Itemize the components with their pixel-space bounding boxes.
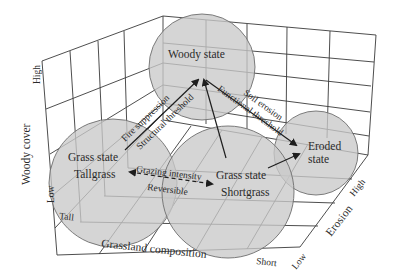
grass-short-state-label: Grass state bbox=[216, 169, 266, 181]
state-transition-diagram: Fire suppression Structural threshold So… bbox=[0, 0, 394, 278]
axis-tick-woody-low: Low bbox=[46, 185, 56, 203]
grass-tall-state-label: Grass state bbox=[68, 151, 118, 163]
axis-label-erosion: Erosion bbox=[323, 202, 355, 238]
grass-short-sub-label: Shortgrass bbox=[221, 186, 270, 199]
axis-tick-short: Short bbox=[256, 256, 278, 268]
axis-tick-woody-high: High bbox=[32, 65, 42, 84]
woody-state-label: Woody state bbox=[168, 48, 225, 61]
axis-tick-erosion-low: Low bbox=[290, 251, 309, 271]
eroded-state-label: Eroded bbox=[308, 140, 341, 152]
eroded-state-sub-label: state bbox=[308, 153, 329, 165]
axis-tick-erosion-high: High bbox=[348, 177, 368, 198]
grass-tall-sub-label: Tallgrass bbox=[74, 168, 116, 181]
axis-label-woody-cover: Woody cover bbox=[20, 123, 33, 185]
axis-tick-tall: Tall bbox=[59, 211, 75, 223]
